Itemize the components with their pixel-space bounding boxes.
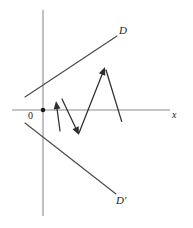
label-x-axis: x [172, 110, 176, 120]
vector-1 [57, 109, 60, 131]
origin-point [41, 108, 46, 113]
axes-group [12, 10, 170, 216]
line-d [25, 36, 117, 97]
vector-3 [79, 74, 102, 133]
geometry-figure: D D' x 0 [0, 0, 193, 228]
vector-3-arrowhead [99, 67, 105, 76]
label-origin: 0 [28, 111, 33, 121]
label-line-d-prime: D' [116, 195, 126, 206]
label-line-d: D [119, 25, 127, 36]
vector-2 [62, 99, 76, 128]
vector-4 [106, 70, 122, 121]
vectors-group [54, 67, 122, 135]
rays-group [25, 36, 117, 194]
vector-1-arrowhead [54, 101, 61, 109]
line-d-prime [25, 123, 116, 194]
